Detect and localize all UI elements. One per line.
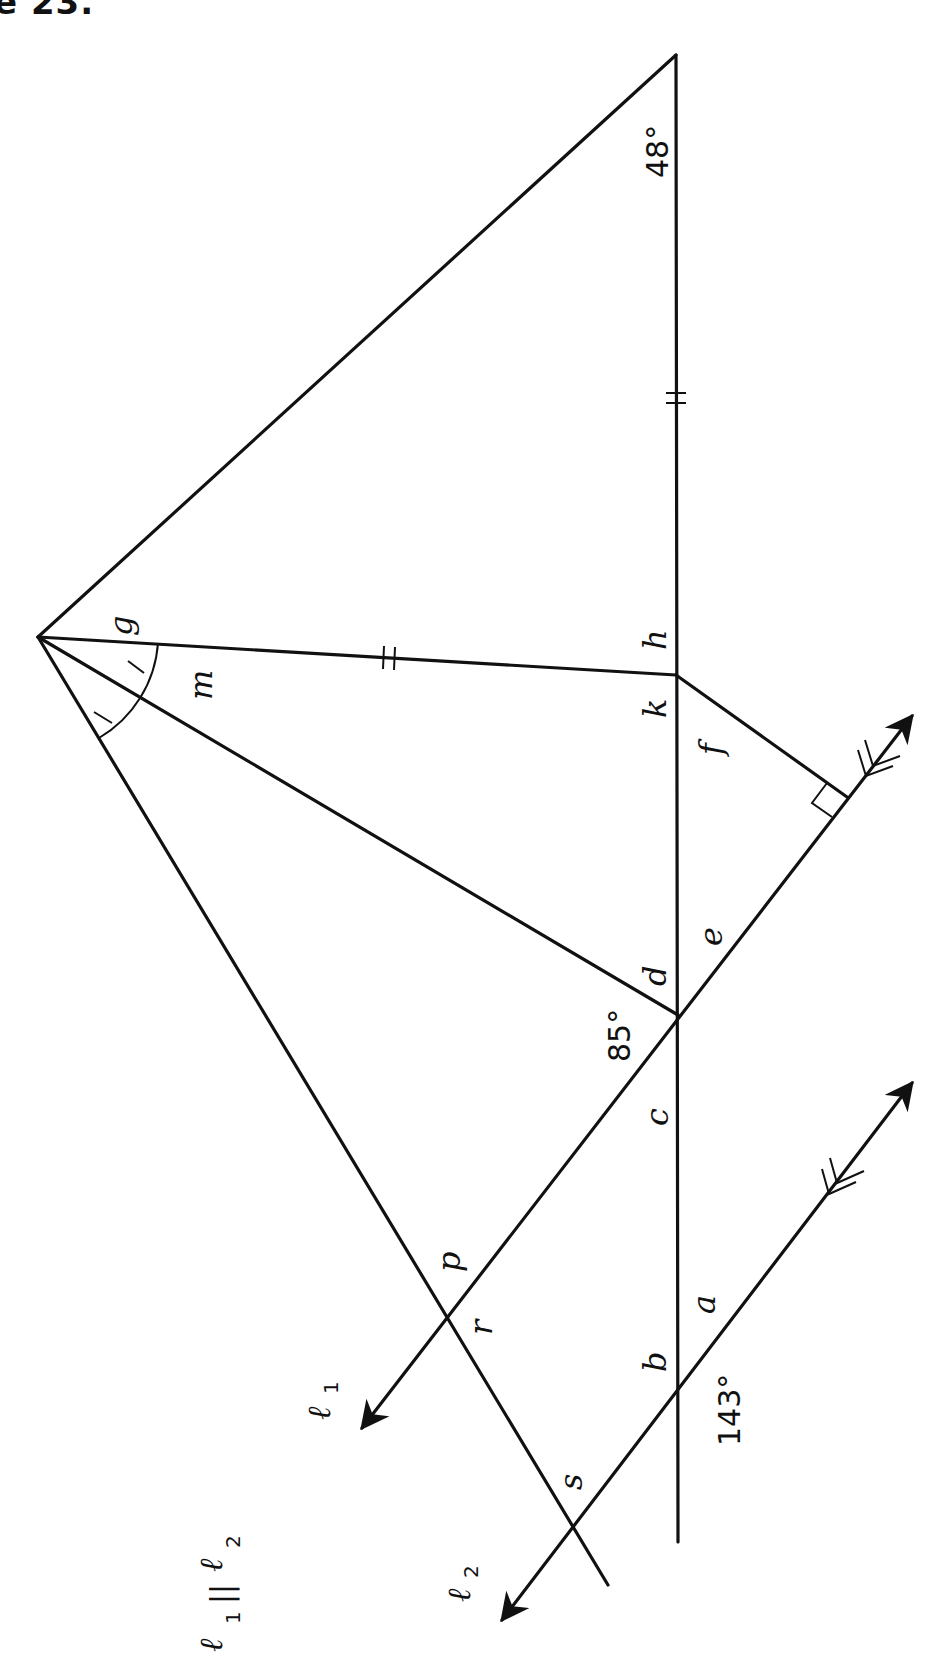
angle-d-label: d xyxy=(636,966,674,986)
vertical-baseline xyxy=(676,55,678,1542)
angle-e-label: e xyxy=(692,927,730,946)
svg-text:ℓ: ℓ xyxy=(192,1638,230,1652)
angle-r-label: r xyxy=(462,1318,500,1335)
svg-text:ℓ: ℓ xyxy=(192,1558,230,1572)
angle-s-label: s xyxy=(552,1474,590,1490)
parallel-statement: ℓ 1 || ℓ 2 xyxy=(192,1535,245,1652)
angle-c-label: c xyxy=(638,1108,676,1126)
angle-85: 85° xyxy=(602,1009,637,1062)
angle-48: 48° xyxy=(640,125,675,178)
label-l1: ℓ 1 xyxy=(300,1381,343,1420)
geometry-diagram: 48° g h k m f d e 85° c p r a b 143° s ℓ… xyxy=(0,0,945,1677)
svg-text:2: 2 xyxy=(221,1535,245,1548)
angle-b-label: b xyxy=(636,1352,674,1372)
angle-143: 143° xyxy=(712,1374,747,1446)
perpendicular-segment xyxy=(676,675,847,797)
svg-text:1: 1 xyxy=(319,1381,343,1394)
angle-tick-2 xyxy=(94,712,112,723)
apex-left-transversal xyxy=(38,637,608,1585)
angle-g-label: g xyxy=(102,616,140,636)
label-l2: ℓ 2 xyxy=(440,1565,483,1602)
angle-f-label: f xyxy=(692,738,730,757)
angle-tick-1 xyxy=(128,661,144,673)
angle-k-label: k xyxy=(636,699,674,718)
angle-a-label: a xyxy=(685,1295,723,1314)
triangle-lines xyxy=(38,55,847,1585)
svg-text:2: 2 xyxy=(459,1565,483,1578)
angle-p-label: p xyxy=(430,1252,468,1272)
right-angle-mark xyxy=(812,783,832,817)
apex-to-h-segment xyxy=(38,637,676,675)
svg-text:ℓ: ℓ xyxy=(300,1406,338,1420)
apex-to-d-segment xyxy=(38,637,678,1015)
svg-text:ℓ: ℓ xyxy=(440,1588,478,1602)
svg-text:||: || xyxy=(204,1584,240,1604)
line-l1 xyxy=(362,716,912,1428)
line-l2 xyxy=(502,1083,912,1620)
svg-text:1: 1 xyxy=(221,1611,245,1624)
angle-m-label: m xyxy=(182,670,220,700)
apex-to-top-segment xyxy=(38,55,676,637)
angle-h-label: h xyxy=(636,629,674,650)
